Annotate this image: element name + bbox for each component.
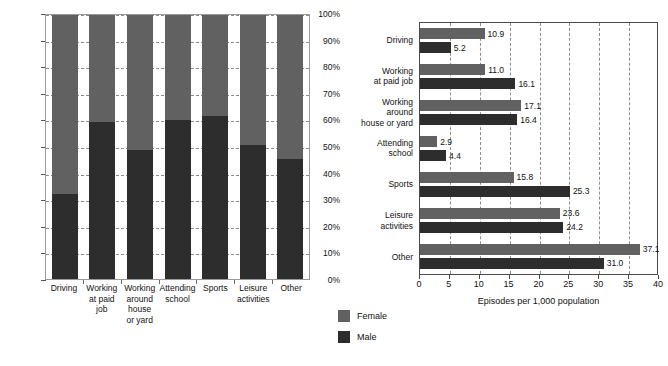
bar-male: 25.3 bbox=[420, 186, 657, 197]
bar-fill-female bbox=[420, 64, 485, 75]
bar-segment-female bbox=[240, 15, 266, 145]
x-axis-label: Sports bbox=[196, 283, 234, 343]
bar-segment-male bbox=[52, 194, 78, 279]
bar-segment-female bbox=[52, 15, 78, 194]
bar-value-label-female: 2.9 bbox=[437, 137, 452, 146]
left-chart-stacked-percent: 0%10%20%30%40%50%60%70%80%90%100% Drivin… bbox=[0, 0, 340, 366]
category-label: Workingat paid job bbox=[340, 58, 417, 94]
x-tick-label: 5 bbox=[437, 280, 461, 289]
bar-value-label-male: 24.2 bbox=[563, 223, 583, 232]
bar-female: 11.0 bbox=[420, 64, 657, 75]
bar-fill-female bbox=[420, 100, 521, 111]
bar-value-label-female: 17.1 bbox=[521, 101, 541, 110]
bar-fill-female bbox=[420, 208, 560, 219]
bar-segment-male bbox=[202, 116, 228, 279]
left-x-axis-labels: DrivingWorkingat paidjobWorkingaroundhou… bbox=[45, 283, 310, 343]
right-category-labels: DrivingWorkingat paid jobWorkingaroundho… bbox=[340, 22, 417, 275]
bar-fill-male bbox=[420, 78, 515, 89]
x-tick-label: 15 bbox=[497, 280, 521, 289]
bar-value-label-female: 37.1 bbox=[640, 245, 660, 254]
right-bar-groups: 10.95.211.016.117.116.42.94.415.825.323.… bbox=[420, 23, 657, 274]
bar-value-label-male: 16.4 bbox=[517, 115, 537, 124]
bar-female: 15.8 bbox=[420, 172, 657, 183]
x-axis-label: Workingaroundhouseor yard bbox=[121, 283, 159, 343]
bar-value-label-male: 4.4 bbox=[446, 151, 461, 160]
bar-fill-male bbox=[420, 42, 451, 53]
left-plot-area bbox=[45, 14, 310, 280]
x-tick-label: 0 bbox=[407, 280, 431, 289]
bar-group-3[interactable]: 17.116.4 bbox=[420, 95, 657, 131]
bar-segment-female bbox=[127, 15, 153, 150]
x-tick-label: 30 bbox=[586, 280, 610, 289]
right-plot-area: 10.95.211.016.117.116.42.94.415.825.323.… bbox=[419, 22, 658, 275]
bar-segment-female bbox=[89, 15, 115, 122]
bar-segment-male bbox=[240, 145, 266, 279]
bar-fill-male bbox=[420, 222, 563, 233]
bar-fill-female bbox=[420, 244, 640, 255]
bar-value-label-male: 31.0 bbox=[604, 259, 624, 268]
bar-group-1[interactable]: 10.95.2 bbox=[420, 23, 657, 59]
bar-female: 23.6 bbox=[420, 208, 657, 219]
stacked-bar-7[interactable] bbox=[271, 15, 309, 279]
bar-fill-female bbox=[420, 172, 514, 183]
bar-female: 10.9 bbox=[420, 28, 657, 39]
category-label: Workingaroundhouse or yard bbox=[340, 94, 417, 130]
bar-fill-male bbox=[420, 186, 570, 197]
legend-swatch-male-icon bbox=[338, 331, 350, 343]
category-label: Other bbox=[340, 239, 417, 275]
bar-group-4[interactable]: 2.94.4 bbox=[420, 131, 657, 167]
x-axis-label: Leisureactivities bbox=[234, 283, 272, 343]
bar-group-6[interactable]: 23.624.2 bbox=[420, 202, 657, 238]
bar-group-7[interactable]: 37.131.0 bbox=[420, 238, 657, 274]
x-tick-label: 20 bbox=[527, 280, 551, 289]
stacked-bar-2[interactable] bbox=[84, 15, 122, 279]
bar-segment-male bbox=[89, 122, 115, 279]
bar-male: 31.0 bbox=[420, 258, 657, 269]
bar-value-label-female: 15.8 bbox=[514, 173, 534, 182]
figure-two-panel-chart: 0%10%20%30%40%50%60%70%80%90%100% Drivin… bbox=[0, 0, 668, 366]
stacked-bar-6[interactable] bbox=[234, 15, 272, 279]
legend-swatch-female-icon bbox=[338, 310, 350, 322]
bar-male: 16.4 bbox=[420, 114, 657, 125]
bar-fill-male bbox=[420, 150, 446, 161]
stacked-bar-4[interactable] bbox=[159, 15, 197, 279]
x-axis-label: Other bbox=[272, 283, 310, 343]
stacked-bar-5[interactable] bbox=[196, 15, 234, 279]
category-label: Leisureactivities bbox=[340, 203, 417, 239]
x-axis-label: Driving bbox=[45, 283, 83, 343]
bar-male: 24.2 bbox=[420, 222, 657, 233]
bar-fill-female bbox=[420, 136, 437, 147]
bar-segment-female bbox=[165, 15, 191, 120]
x-tick-label: 35 bbox=[616, 280, 640, 289]
stacked-bar-3[interactable] bbox=[121, 15, 159, 279]
category-label: Attendingschool bbox=[340, 130, 417, 166]
legend-item-female: Female bbox=[338, 310, 458, 322]
bar-fill-male bbox=[420, 258, 604, 269]
bar-male: 4.4 bbox=[420, 150, 657, 161]
category-label: Sports bbox=[340, 167, 417, 203]
right-x-axis-title: Episodes per 1,000 population bbox=[419, 296, 658, 306]
x-axis-label: Attendingschool bbox=[159, 283, 197, 343]
bar-value-label-female: 10.9 bbox=[485, 30, 505, 39]
bar-segment-female bbox=[277, 15, 303, 159]
x-axis-label: Workingat paidjob bbox=[83, 283, 121, 343]
bar-male: 16.1 bbox=[420, 78, 657, 89]
bar-female: 37.1 bbox=[420, 244, 657, 255]
bar-value-label-female: 11.0 bbox=[485, 66, 504, 75]
bar-segment-male bbox=[165, 120, 191, 279]
bar-fill-female bbox=[420, 28, 485, 39]
bar-value-label-female: 23.6 bbox=[560, 209, 580, 218]
bar-group-5[interactable]: 15.825.3 bbox=[420, 166, 657, 202]
left-bar-group bbox=[46, 15, 309, 279]
stacked-bar-1[interactable] bbox=[46, 15, 84, 279]
bar-segment-female bbox=[202, 15, 228, 116]
bar-group-2[interactable]: 11.016.1 bbox=[420, 59, 657, 95]
bar-female: 17.1 bbox=[420, 100, 657, 111]
legend-item-male: Male bbox=[338, 331, 458, 343]
legend-label-female: Female bbox=[357, 311, 387, 321]
y-tick-mark bbox=[41, 280, 46, 281]
bar-value-label-male: 25.3 bbox=[570, 187, 590, 196]
x-tick-label: 10 bbox=[467, 280, 491, 289]
x-tick-label: 40 bbox=[646, 280, 668, 289]
legend: Female Male bbox=[338, 310, 458, 352]
